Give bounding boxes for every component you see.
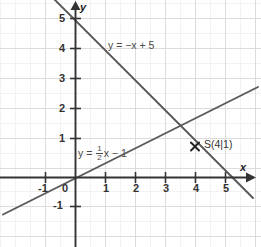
fraction-one-half: 12	[96, 145, 102, 162]
intersection-point-label: S(4|1)	[204, 138, 232, 150]
line-half-x-minus-1	[3, 87, 258, 215]
equation-label-line2-prefix: y =	[78, 147, 95, 159]
x-tick-label-1: 1	[103, 182, 109, 194]
x-axis-name: x	[240, 161, 246, 173]
x-tick-label-5: 5	[223, 182, 229, 194]
y-tick-label-3: 3	[59, 72, 65, 84]
y-tick-label-5: 5	[59, 12, 65, 24]
plot-canvas	[0, 0, 261, 247]
equation-label-line1: y = −x + 5	[108, 39, 154, 51]
x-tick-label-3: 3	[163, 182, 169, 194]
equation-label-line2-suffix: x − 1	[104, 147, 127, 159]
y-tick-label-4: 4	[59, 42, 65, 54]
origin-label: 0	[62, 182, 68, 194]
coordinate-graph-figure: 5 4 3 2 1 -1 0 -1 1 2 3 4 5 y x y = −x +…	[0, 0, 261, 247]
equation-label-line2: y = 12x − 1	[78, 145, 127, 162]
y-tick-label-2: 2	[59, 102, 65, 114]
fraction-denominator: 2	[96, 154, 102, 162]
x-tick-label-4: 4	[193, 182, 199, 194]
y-axis-name: y	[80, 1, 86, 13]
y-tick-label-neg1: -1	[53, 199, 63, 211]
x-tick-label-neg1: -1	[38, 182, 48, 194]
x-tick-label-2: 2	[133, 182, 139, 194]
minor-grid	[0, 0, 261, 247]
y-tick-label-1: 1	[59, 132, 65, 144]
